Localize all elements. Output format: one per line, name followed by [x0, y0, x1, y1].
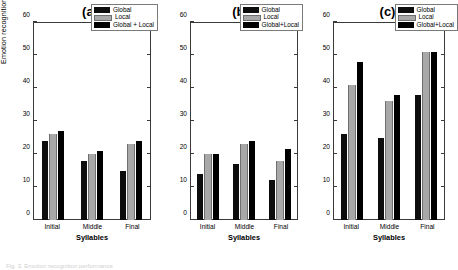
y-tick-label: 40	[323, 78, 330, 85]
panel-a-x-ticks: InitialMiddleFinal	[33, 220, 151, 234]
bar-local-final	[127, 144, 135, 220]
legend-label: Local	[264, 14, 279, 20]
bar-group	[233, 22, 255, 220]
panel-b-plot-wrapper: InitialMiddleFinal Syllables 01020304050…	[190, 22, 298, 220]
y-tick-label: 10	[180, 177, 187, 184]
y-tick-label: 40	[23, 78, 30, 85]
y-tick-label: 50	[23, 45, 30, 52]
bar-global-local-initial	[58, 131, 64, 220]
y-tick-mark	[33, 153, 37, 154]
bar-local-initial	[204, 154, 212, 220]
y-tick-mark	[33, 87, 37, 88]
legend-label: Global+Local	[417, 22, 454, 28]
y-tick-mark	[294, 54, 298, 55]
y-tick-mark	[33, 219, 37, 220]
y-tick-mark	[147, 186, 151, 187]
y-tick-label: 60	[180, 12, 187, 19]
bar-global-final	[120, 171, 126, 221]
legend-swatch-icon	[94, 15, 112, 21]
y-tick-mark	[441, 219, 445, 220]
bar-local-middle	[88, 154, 96, 220]
bar-group	[269, 22, 291, 220]
y-tick-label: 10	[23, 177, 30, 184]
x-tick-label: Initial	[343, 220, 358, 234]
x-tick-label: Middle	[380, 220, 399, 234]
bar-global-local-middle	[97, 151, 103, 220]
y-tick-mark	[294, 87, 298, 88]
chart-panel-a: (a) Emotion recognition performance (%) …	[0, 0, 160, 252]
y-tick-mark	[33, 120, 37, 121]
x-tick-label: Final	[274, 220, 288, 234]
y-tick-label: 30	[180, 111, 187, 118]
y-tick-label: 10	[323, 177, 330, 184]
bar-global-local-final	[431, 52, 437, 220]
bar-global-middle	[81, 161, 87, 220]
y-tick-label: 30	[23, 111, 30, 118]
bar-group	[341, 22, 363, 220]
bar-global-local-final	[136, 141, 142, 220]
bar-group	[378, 22, 400, 220]
legend-swatch-icon	[398, 22, 414, 28]
y-tick-mark	[147, 87, 151, 88]
x-tick-label: Final	[125, 220, 139, 234]
y-tick-mark	[33, 54, 37, 55]
y-tick-mark	[294, 120, 298, 121]
panel-c-plot-wrapper: InitialMiddleFinal Syllables 01020304050…	[333, 22, 445, 220]
x-tick-label: Final	[420, 220, 434, 234]
legend-swatch-icon	[243, 22, 259, 28]
bar-local-initial	[49, 134, 57, 220]
bar-local-final	[422, 52, 430, 220]
y-tick-mark	[294, 153, 298, 154]
x-tick-label: Initial	[200, 220, 215, 234]
y-tick-mark	[190, 54, 194, 55]
panel-a-bars	[33, 22, 151, 220]
y-tick-mark	[147, 153, 151, 154]
panel-c-x-axis-label: Syllables	[333, 233, 445, 242]
bar-local-middle	[385, 101, 393, 220]
legend-entry: Global+Local	[398, 22, 454, 28]
bar-global-local-initial	[357, 62, 363, 220]
panel-b-x-ticks: InitialMiddleFinal	[190, 220, 298, 234]
y-tick-mark	[333, 120, 337, 121]
bar-global-middle	[378, 138, 384, 221]
bar-local-final	[276, 161, 284, 220]
panel-a-y-axis-label: Emotion recognition performance (%)	[0, 0, 8, 64]
y-tick-label: 20	[323, 144, 330, 151]
panel-b-legend: GlobalLocalGlobal+Local	[240, 4, 303, 31]
bar-local-middle	[240, 144, 248, 220]
legend-swatch-icon	[398, 7, 414, 13]
y-tick-mark	[33, 186, 37, 187]
legend-entry: Global+Local	[243, 22, 299, 28]
bar-group	[197, 22, 219, 220]
legend-swatch-icon	[94, 7, 110, 13]
x-tick-label: Initial	[44, 220, 59, 234]
figure-root: (a) Emotion recognition performance (%) …	[0, 0, 458, 270]
figure-caption: Fig. 3. Emotion recognition performance	[6, 263, 113, 269]
y-tick-mark	[294, 219, 298, 220]
y-tick-mark	[190, 153, 194, 154]
y-tick-mark	[333, 153, 337, 154]
panel-c-legend: GlobalLocalGlobal+Local	[395, 4, 458, 31]
y-tick-mark	[441, 87, 445, 88]
bar-global-local-initial	[213, 154, 219, 220]
legend-swatch-icon	[94, 22, 110, 28]
y-tick-label: 50	[180, 45, 187, 52]
y-tick-label: 0	[326, 210, 330, 217]
bar-global-local-middle	[249, 141, 255, 220]
bar-local-initial	[348, 85, 356, 220]
panel-c-bars	[333, 22, 445, 220]
y-tick-mark	[190, 21, 194, 22]
bar-global-local-final	[285, 149, 291, 220]
bar-global-final	[269, 180, 275, 220]
legend-swatch-icon	[243, 15, 261, 21]
y-tick-label: 20	[23, 144, 30, 151]
y-tick-label: 20	[180, 144, 187, 151]
panel-a-plot-wrapper: InitialMiddleFinal Syllables 01020304050…	[33, 22, 151, 220]
legend-entry: Global + Local	[94, 22, 154, 28]
panel-container: (a) Emotion recognition performance (%) …	[0, 0, 458, 252]
legend-label: Local	[419, 14, 434, 20]
panel-a-legend: GlobalLocalGlobal + Local	[91, 4, 158, 31]
legend-label: Global + Local	[113, 22, 154, 28]
chart-panel-b: (b) InitialMiddleFinal Syllables 0102030…	[160, 0, 305, 252]
bar-group	[415, 22, 437, 220]
